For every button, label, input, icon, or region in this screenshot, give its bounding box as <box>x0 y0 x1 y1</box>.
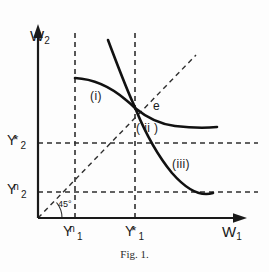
tick-y1-n-sub: 1 <box>77 231 83 242</box>
tick-label-y1-star: Y*1 <box>125 224 145 238</box>
curve-ii-iii-path <box>108 40 213 194</box>
x-axis-label-main: W <box>222 223 236 240</box>
tick-y1-star-sub: 1 <box>138 231 144 242</box>
tick-y2-n-sup: n <box>13 181 19 192</box>
tick-label-y2-star: Y*2 <box>7 133 27 147</box>
figure-container: W2 W1 Y*2 Yn2 Yn1 Y*1 (i) ( ii ) (iii) e… <box>0 0 269 272</box>
x-axis-label-sub: 1 <box>236 231 242 242</box>
tick-y1-n-sup: n <box>69 223 75 234</box>
y-axis-label-sub: 2 <box>44 35 50 46</box>
equilibrium-point-label: e <box>153 100 160 112</box>
curve-label-iii: (iii) <box>172 158 190 170</box>
angle-label-45: 45° <box>58 200 72 209</box>
tick-y1-star-sup: * <box>131 223 136 238</box>
tick-y2-star-sup: * <box>13 132 18 147</box>
x-axis-arrowhead <box>233 213 247 223</box>
tick-y2-star-sub: 2 <box>20 140 26 151</box>
y-axis-label: W2 <box>30 28 50 43</box>
forty-five-degree-line <box>38 55 196 218</box>
tick-y2-n-sub: 2 <box>21 189 27 200</box>
figure-caption: Fig. 1. <box>0 248 269 260</box>
x-axis-label: W1 <box>222 224 242 239</box>
tick-label-y2-n: Yn2 <box>7 182 27 196</box>
curve-label-i: (i) <box>90 90 102 102</box>
y-axis-label-main: W <box>30 27 44 44</box>
tick-label-y1-n: Yn1 <box>63 224 83 238</box>
curve-label-ii: ( ii ) <box>136 122 158 134</box>
